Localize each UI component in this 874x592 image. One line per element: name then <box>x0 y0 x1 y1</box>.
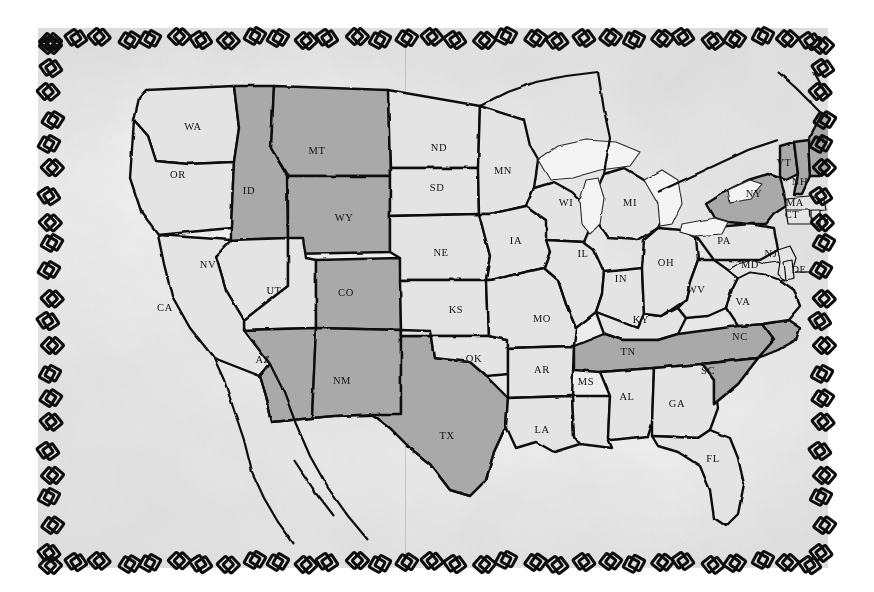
state-FL[interactable] <box>652 430 744 526</box>
state-label-UT: UT <box>266 285 281 296</box>
state-label-OR: OR <box>170 169 186 180</box>
state-label-ID: ID <box>243 185 255 196</box>
map-sheet: WAORIDMTWYNVUTCAAZCONMTXNDSDNEKSOKMNIAMO… <box>38 28 828 568</box>
state-label-FL: FL <box>706 453 719 464</box>
state-MS[interactable] <box>572 396 612 448</box>
state-label-MI: MI <box>623 197 637 208</box>
state-label-WA: WA <box>184 121 202 132</box>
state-label-SC: SC <box>701 365 715 376</box>
us-states-map: WAORIDMTWYNVUTCAAZCONMTXNDSDNEKSOKMNIAMO… <box>38 28 828 568</box>
state-label-CT: CT <box>785 209 800 220</box>
state-label-MA: MA <box>786 197 804 208</box>
state-label-GA: GA <box>669 398 685 409</box>
state-KS[interactable] <box>400 280 488 336</box>
state-label-PA: PA <box>717 235 731 246</box>
map-canvas: WAORIDMTWYNVUTCAAZCONMTXNDSDNEKSOKMNIAMO… <box>38 28 828 568</box>
state-label-OH: OH <box>658 257 674 268</box>
state-label-MO: MO <box>533 313 551 324</box>
state-label-DE: DE <box>791 264 806 275</box>
state-MT[interactable] <box>271 86 390 176</box>
state-label-TN: TN <box>620 346 635 357</box>
state-label-NH: NH <box>792 176 808 187</box>
state-label-ND: ND <box>431 142 447 153</box>
state-NM[interactable] <box>312 328 401 418</box>
state-label-LA: LA <box>534 424 549 435</box>
state-label-OK: OK <box>466 353 482 364</box>
state-label-MN: MN <box>494 165 512 176</box>
state-label-NE: NE <box>433 247 448 258</box>
state-label-VT: VT <box>776 157 791 168</box>
state-label-KS: KS <box>449 304 464 315</box>
state-label-CA: CA <box>157 302 173 313</box>
state-label-KY: KY <box>633 314 649 325</box>
state-label-MS: MS <box>578 376 594 387</box>
state-label-VA: VA <box>735 296 750 307</box>
state-label-RI: RI <box>823 214 828 225</box>
state-label-NC: NC <box>732 331 748 342</box>
state-label-IN: IN <box>615 273 627 284</box>
state-label-MT: MT <box>309 145 326 156</box>
state-label-WV: WV <box>687 284 706 295</box>
state-label-IA: IA <box>510 235 522 246</box>
state-label-NM: NM <box>333 375 351 386</box>
state-label-TX: TX <box>439 430 454 441</box>
state-RI[interactable] <box>812 210 820 224</box>
state-label-MD: MD <box>741 259 759 270</box>
state-label-IL: IL <box>577 248 588 259</box>
state-label-NJ: NJ <box>765 248 778 259</box>
screenshot-root: WAORIDMTWYNVUTCAAZCONMTXNDSDNEKSOKMNIAMO… <box>0 0 874 592</box>
state-label-NV: NV <box>200 259 216 270</box>
state-label-AZ: AZ <box>255 354 270 365</box>
state-polygons <box>130 86 828 526</box>
state-CO[interactable] <box>316 258 401 330</box>
state-label-WI: WI <box>559 197 574 208</box>
state-label-NY: NY <box>746 188 762 199</box>
state-label-SD: SD <box>430 182 445 193</box>
state-label-CO: CO <box>338 287 354 298</box>
state-label-AL: AL <box>619 391 634 402</box>
state-ND[interactable] <box>388 90 480 168</box>
state-label-WY: WY <box>335 212 354 223</box>
state-label-AR: AR <box>534 364 550 375</box>
state-label-ME: ME <box>816 134 828 145</box>
